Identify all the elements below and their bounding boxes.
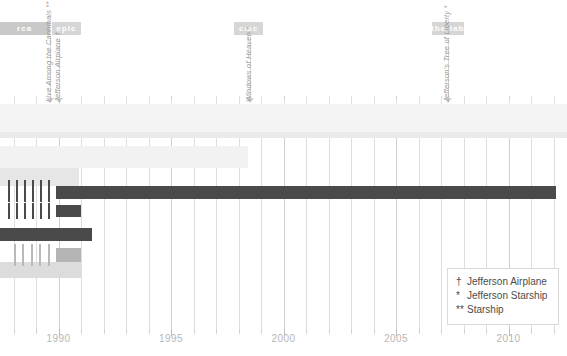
axis-label-2000: 2000 — [272, 333, 296, 344]
axis-tick-1991 — [81, 329, 82, 334]
hatch-3-line-1 — [22, 244, 24, 266]
axis-label-1995: 1995 — [159, 333, 183, 344]
axis-tick-1996 — [194, 329, 195, 334]
callout-label-1: Jefferson Airplane † — [53, 32, 62, 102]
axis-tick-2001 — [306, 329, 307, 334]
bar-band-row-3 — [0, 146, 248, 168]
hatch-1-line-0 — [8, 180, 10, 202]
hatch-2-line-3 — [32, 203, 34, 219]
bar-bar-gray-1 — [56, 248, 81, 262]
hatch-1-line-1 — [16, 180, 18, 202]
axis-tick-1999 — [261, 329, 262, 334]
era-rca: rca — [0, 22, 50, 35]
legend: †Jefferson Airplane*Jefferson Starship**… — [447, 268, 559, 325]
axis-tick-2011 — [531, 329, 532, 334]
axis-tick-2012 — [554, 329, 555, 334]
axis-tick-1989 — [36, 329, 37, 334]
axis-tick-1997 — [216, 329, 217, 334]
plot-area: rcaepiccmcthe labLive Among the Cannibal… — [0, 0, 567, 356]
era-label-0: rca — [17, 24, 32, 33]
axis-tick-2002 — [329, 329, 330, 334]
hatch-1-line-5 — [48, 180, 50, 202]
hatch-1-line-4 — [40, 180, 42, 202]
axis-tick-1988 — [14, 329, 15, 334]
legend-entry-0: †Jefferson Airplane — [456, 275, 550, 289]
axis-tick-2008 — [464, 329, 465, 334]
legend-entry-1: *Jefferson Starship — [456, 289, 550, 303]
hatch-3-line-0 — [14, 244, 16, 266]
legend-entry-2: **Starship — [456, 303, 550, 317]
legend-mark-0: † — [456, 275, 467, 289]
legend-mark-2: ** — [456, 303, 467, 317]
axis-tick-1992 — [104, 329, 105, 334]
bar-bar-dark-3 — [0, 228, 92, 241]
axis-tick-1993 — [126, 329, 127, 334]
hatch-1-line-2 — [24, 180, 26, 202]
bar-bar-dark-2 — [56, 205, 81, 217]
legend-label-2: Starship — [467, 304, 504, 315]
callout-label-3: Jefferson's Tree of Liberty * — [442, 5, 451, 102]
hatch-3-line-3 — [39, 244, 41, 266]
hatch-2-line-5 — [48, 203, 50, 219]
hatch-2-line-0 — [8, 203, 10, 219]
hatch-2-line-1 — [16, 203, 18, 219]
hatch-3-line-2 — [31, 244, 33, 266]
hatch-1 — [8, 180, 56, 202]
legend-label-1: Jefferson Starship — [467, 290, 547, 301]
hatch-3 — [14, 244, 56, 266]
axis-tick-2007 — [441, 329, 442, 334]
hatch-2 — [8, 203, 56, 219]
legend-mark-1: * — [456, 289, 467, 303]
axis-label-2005: 2005 — [384, 333, 408, 344]
hatch-2-line-4 — [40, 203, 42, 219]
callout-label-2: Windows of Heaven * — [244, 27, 253, 102]
bar-band-row-2 — [0, 132, 567, 138]
axis-tick-2006 — [419, 329, 420, 334]
axis-tick-2003 — [351, 329, 352, 334]
axis-label-1990: 1990 — [47, 333, 71, 344]
callout-label-0: Live Among the Cannibals ** — [44, 1, 53, 102]
hatch-1-line-3 — [32, 180, 34, 202]
axis-tick-2009 — [486, 329, 487, 334]
axis-tick-1998 — [239, 329, 240, 334]
bar-band-row-1 — [0, 104, 567, 132]
hatch-3-line-4 — [48, 244, 50, 266]
axis-tick-1994 — [149, 329, 150, 334]
axis-label-2010: 2010 — [497, 333, 521, 344]
timeline-chart: rcaepiccmcthe labLive Among the Cannibal… — [0, 0, 567, 356]
legend-label-0: Jefferson Airplane — [467, 276, 547, 287]
axis-tick-2004 — [374, 329, 375, 334]
hatch-2-line-2 — [24, 203, 26, 219]
bar-bar-dark-1 — [56, 186, 556, 199]
